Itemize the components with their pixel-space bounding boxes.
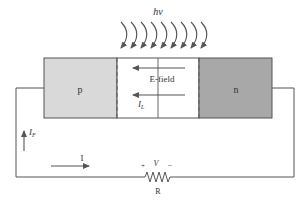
photon-arrows [121,22,207,48]
photodiode-diagram: hv p n E-field IL + V − R IF I [0,0,306,204]
resistor-symbol [145,172,170,182]
e-field-label: E-field [150,74,175,84]
voltage-minus: − [168,161,173,170]
n-label: n [234,84,239,95]
resistor-label: R [155,187,161,196]
p-label: p [78,84,83,95]
forward-current-label: IF [28,127,36,138]
voltage-label: V [154,159,160,168]
photon-label: hv [153,6,163,17]
loop-current-label: I [81,153,84,163]
voltage-plus: + [141,162,145,170]
